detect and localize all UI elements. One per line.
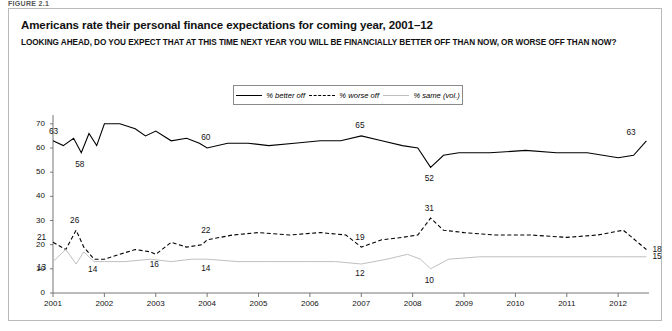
data-point-label: 26 — [70, 215, 79, 225]
data-point-label: 14 — [88, 264, 97, 274]
data-point-label: 12 — [355, 268, 364, 278]
series-line — [53, 124, 646, 168]
data-point-label: 14 — [201, 263, 210, 273]
x-axis-tick: 2003 — [139, 299, 173, 308]
data-point-label: 15 — [652, 251, 661, 261]
data-point-label: 19 — [355, 232, 364, 242]
axes — [50, 115, 649, 297]
x-axis-tick: 2001 — [36, 299, 70, 308]
x-axis-tick: 2002 — [87, 299, 121, 308]
data-point-label: 13 — [37, 262, 46, 272]
data-point-label: 63 — [626, 127, 635, 137]
chart-frame: Americans rate their personal finance ex… — [8, 8, 662, 321]
series-line — [53, 218, 646, 259]
x-axis-tick: 2010 — [498, 299, 532, 308]
x-axis-tick: 2012 — [601, 299, 635, 308]
data-point-label: 58 — [75, 159, 84, 169]
plot-area — [9, 9, 663, 322]
data-point-label: 16 — [150, 259, 159, 269]
figure-label: FIGURE 2.1 — [8, 0, 49, 7]
y-axis-tick: 50 — [27, 167, 45, 176]
data-point-label: 31 — [425, 203, 434, 213]
data-point-label: 10 — [425, 275, 434, 285]
data-point-label: 63 — [49, 126, 58, 136]
data-point-label: 52 — [425, 173, 434, 183]
y-axis-tick: 60 — [27, 143, 45, 152]
x-axis-tick: 2007 — [344, 299, 378, 308]
series-layer — [53, 124, 646, 269]
x-axis-tick: 2008 — [396, 299, 430, 308]
y-axis-tick: 70 — [27, 119, 45, 128]
x-axis-tick: 2011 — [550, 299, 584, 308]
x-axis-tick: 2006 — [293, 299, 327, 308]
data-point-label: 22 — [201, 225, 210, 235]
data-point-label: 60 — [201, 132, 210, 142]
y-axis-tick: 40 — [27, 191, 45, 200]
x-axis-tick: 2009 — [447, 299, 481, 308]
y-axis-tick: 30 — [27, 216, 45, 225]
series-line — [53, 250, 646, 269]
data-point-label: 65 — [355, 120, 364, 130]
x-axis-tick: 2004 — [190, 299, 224, 308]
data-point-label: 21 — [37, 232, 46, 242]
y-axis-tick: 0 — [27, 288, 45, 297]
x-axis-tick: 2005 — [242, 299, 276, 308]
